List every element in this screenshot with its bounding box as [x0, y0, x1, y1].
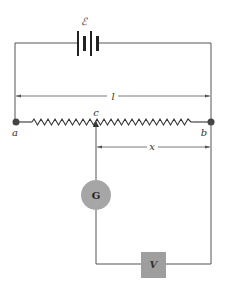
emf-label: ℰ: [81, 16, 88, 27]
point-b-label: b: [201, 127, 207, 138]
distance-label: x: [149, 141, 155, 152]
battery-icon: [77, 31, 99, 56]
node-a: [13, 119, 20, 126]
slider-contact: [93, 121, 99, 180]
top-wire: [15, 43, 211, 122]
voltage-source-label: V: [150, 259, 159, 270]
point-a-label: a: [12, 127, 18, 138]
length-label: l: [111, 91, 114, 102]
slider-label: c: [93, 107, 99, 118]
resistor: [15, 119, 211, 125]
galvanometer-label: G: [92, 190, 101, 201]
potentiometer-diagram: ℰ l a b c x G V: [0, 0, 225, 284]
